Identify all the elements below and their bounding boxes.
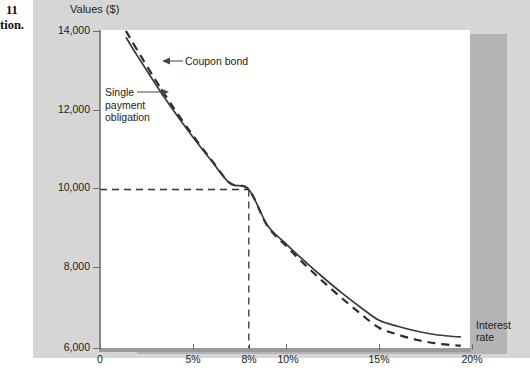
annotation-single-line2: payment <box>105 99 167 112</box>
figure-page: 11 tion. Values ($) 14,000 12,000 10,000… <box>0 0 530 374</box>
chart-graphics <box>0 0 530 374</box>
annotation-single-line1: Single <box>105 86 167 99</box>
annotation-single-payment-obligation: Single payment obligation <box>105 86 167 124</box>
series-coupon-bond <box>126 37 461 337</box>
coupon-bond-annotation-arrow <box>162 58 183 65</box>
annotation-single-line3: obligation <box>105 111 167 124</box>
annotation-coupon-bond: Coupon bond <box>185 55 248 68</box>
series-single-payment-obligation <box>126 31 461 346</box>
